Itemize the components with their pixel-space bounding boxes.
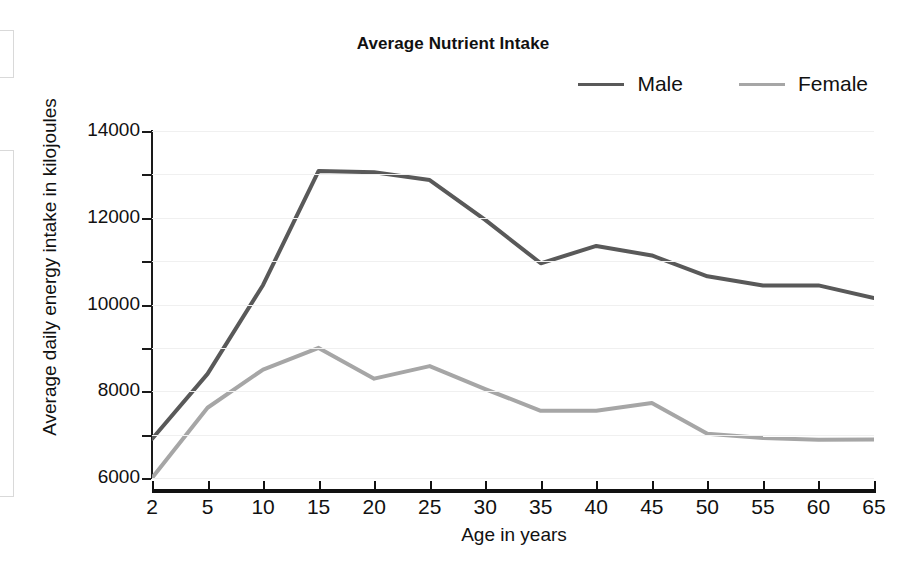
x-axis-tick: [541, 481, 543, 490]
y-axis-tick: [142, 131, 151, 133]
x-axis-tick-label: 45: [640, 495, 663, 519]
x-axis-tick: [319, 481, 321, 490]
y-axis-tick-label: 6000: [0, 466, 140, 488]
plot-area: [152, 131, 874, 478]
y-axis-tick-label: 8000: [0, 379, 140, 401]
x-axis-line: [152, 489, 876, 493]
gridline: [152, 218, 874, 219]
legend-item-female[interactable]: Female: [739, 72, 868, 96]
x-axis-tick: [707, 481, 709, 490]
x-axis-tick-label: 2: [146, 495, 158, 519]
x-axis-tick-label: 30: [474, 495, 497, 519]
x-axis-tick: [208, 481, 210, 490]
x-axis-tick: [874, 481, 876, 490]
gridline: [152, 435, 874, 436]
y-axis-tick-label: 12000: [0, 206, 140, 228]
x-axis-tick-label: 15: [307, 495, 330, 519]
x-axis-tick-label: 10: [251, 495, 274, 519]
y-axis-tick: [142, 261, 151, 263]
x-axis-tick-label: 25: [418, 495, 441, 519]
gridline: [152, 478, 874, 479]
x-axis-tick-label: 65: [862, 495, 885, 519]
y-axis-tick-labels: 14000120001000080006000: [0, 0, 140, 564]
chart-page: Average Nutrient Intake Male Female Aver…: [0, 0, 906, 564]
y-axis-tick: [142, 174, 151, 176]
legend-swatch-male-icon: [578, 83, 624, 86]
x-axis-tick-label: 5: [202, 495, 214, 519]
gridlines: [152, 131, 874, 478]
legend-item-male[interactable]: Male: [578, 72, 683, 96]
y-axis-tick: [142, 478, 151, 480]
x-axis-tick-label: 60: [807, 495, 830, 519]
x-axis-tick: [485, 481, 487, 490]
y-axis-tick: [142, 348, 151, 350]
x-axis-tick-label: 55: [751, 495, 774, 519]
y-axis-tick: [142, 218, 151, 220]
gridline: [152, 391, 874, 392]
y-axis-tick: [142, 391, 151, 393]
gridline: [152, 174, 874, 175]
x-axis-tick: [430, 481, 432, 490]
x-axis-tick-label: 20: [362, 495, 385, 519]
x-axis-tick-label: 50: [696, 495, 719, 519]
gridline: [152, 131, 874, 132]
legend-swatch-female-icon: [739, 83, 785, 86]
gridline: [152, 261, 874, 262]
x-axis-tick-labels: 25101520253035404550556065: [0, 495, 906, 525]
y-axis-tick: [142, 435, 151, 437]
x-axis-tick: [652, 481, 654, 490]
x-axis-tick-label: 40: [585, 495, 608, 519]
x-axis-tick: [763, 481, 765, 490]
x-axis-title: Age in years: [152, 524, 876, 546]
x-axis-tick: [263, 481, 265, 490]
x-axis-tick: [596, 481, 598, 490]
gridline: [152, 348, 874, 349]
y-axis-tick-label: 14000: [0, 119, 140, 141]
y-axis-tick-label: 10000: [0, 293, 140, 315]
x-axis-tick: [818, 481, 820, 490]
x-axis-tick-label: 35: [529, 495, 552, 519]
gridline: [152, 305, 874, 306]
legend-label-male: Male: [637, 72, 683, 96]
x-axis-tick: [374, 481, 376, 490]
y-axis-tick: [142, 305, 151, 307]
legend-label-female: Female: [798, 72, 868, 96]
x-axis-tick: [152, 481, 154, 490]
